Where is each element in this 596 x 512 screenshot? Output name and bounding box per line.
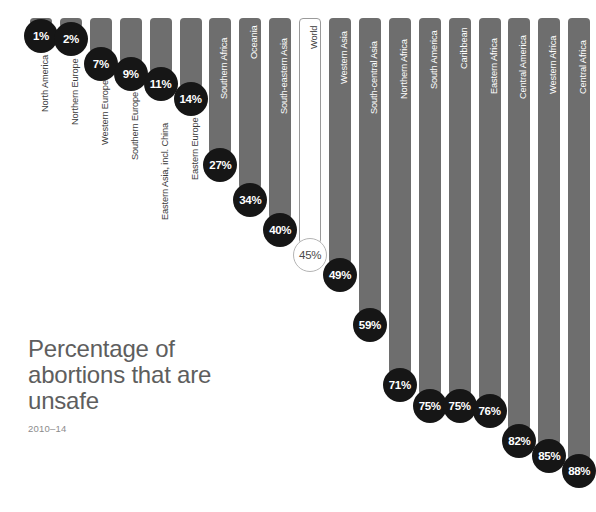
category-label: Caribbean <box>460 27 469 69</box>
title-block: Percentage of abortions that are unsafe … <box>28 336 278 434</box>
category-label: Oceania <box>250 25 259 59</box>
category-label: South America <box>430 30 439 89</box>
category-label: Northern Europe <box>71 59 80 125</box>
value-bubble: 2% <box>54 22 88 56</box>
value-bubble: 45% <box>293 238 327 272</box>
value-bubble: 76% <box>473 394 507 428</box>
category-label: World <box>310 26 319 49</box>
value-bubble: 9% <box>114 57 148 91</box>
category-label: North America <box>41 55 50 112</box>
value-bubble: 85% <box>532 439 566 473</box>
value-bubble: 34% <box>233 183 267 217</box>
value-bubble: 27% <box>203 148 237 182</box>
bar[interactable] <box>180 18 202 88</box>
bar[interactable] <box>299 18 321 244</box>
value-bubble: 14% <box>174 82 208 116</box>
category-label: Western Europe <box>101 80 110 145</box>
value-bubble: 11% <box>144 67 178 101</box>
category-label: Southern Europe <box>131 92 140 160</box>
category-label: Central Africa <box>579 40 588 94</box>
value-bubble: 75% <box>443 389 477 423</box>
value-bubble: 40% <box>263 213 297 247</box>
value-bubble: 49% <box>323 258 357 292</box>
bar[interactable] <box>150 18 172 73</box>
value-bubble: 71% <box>383 368 417 402</box>
category-label: Western Asia <box>340 31 349 84</box>
value-bubble: 75% <box>413 389 447 423</box>
value-bubble: 1% <box>24 19 58 53</box>
category-label: Central America <box>519 35 528 99</box>
category-label: Eastern Europe <box>191 118 200 181</box>
chart-subtitle: 2010–14 <box>28 423 278 434</box>
value-bubble: 82% <box>502 424 536 458</box>
value-bubble: 7% <box>84 47 118 81</box>
bar[interactable] <box>449 18 471 395</box>
category-label: Eastern Asia, incl. China <box>161 123 170 220</box>
category-label: Eastern Africa <box>490 38 499 94</box>
category-label: South-eastern Asia <box>280 38 289 114</box>
chart-title: Percentage of abortions that are unsafe <box>28 336 278 414</box>
category-label: Southern Africa <box>220 38 229 99</box>
category-label: South-central Asia <box>370 41 379 114</box>
category-label: Western Africa <box>549 36 558 94</box>
value-bubble: 88% <box>562 454 596 488</box>
category-label: Northern Africa <box>400 39 409 99</box>
value-bubble: 59% <box>353 308 387 342</box>
